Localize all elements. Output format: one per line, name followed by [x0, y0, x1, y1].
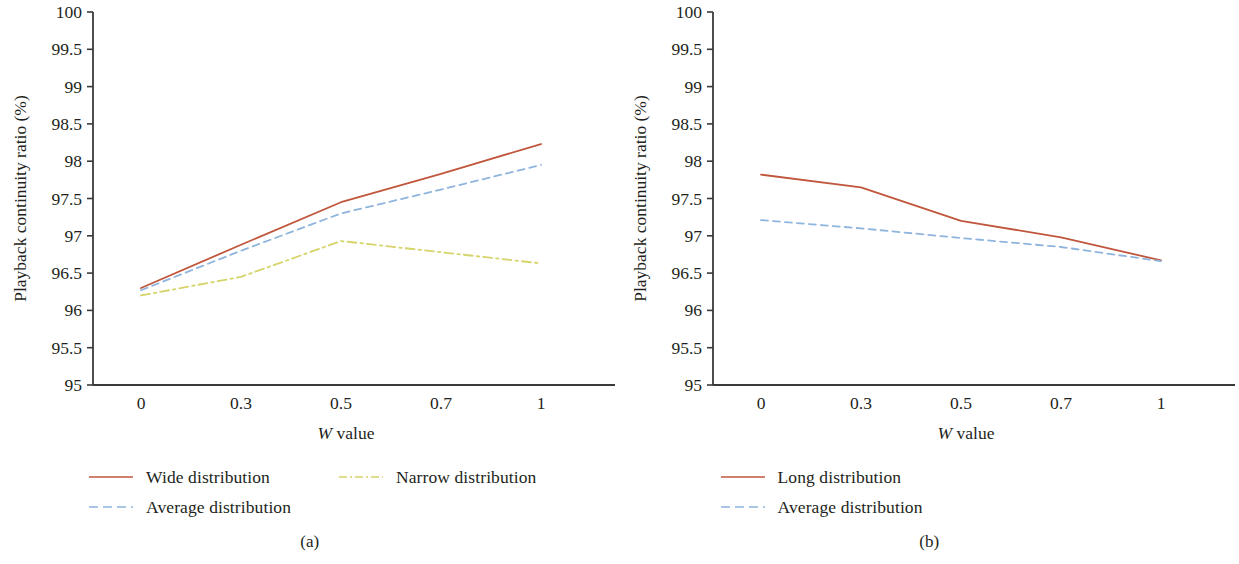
- y-axis-tick-label: 95: [65, 375, 83, 395]
- y-axis-tick-label: 96: [65, 300, 83, 320]
- x-axis-tick-label: 1: [537, 393, 546, 413]
- x-axis-tick-label: 0.5: [330, 393, 352, 413]
- x-axis-tick-label: 0.7: [430, 393, 452, 413]
- legend-label-long: Long distribution: [778, 467, 902, 488]
- legend-item-narrow[interactable]: Narrow distribution: [338, 467, 536, 488]
- chart-panel-b: 9595.59696.59797.59898.59999.510000.30.5…: [620, 0, 1239, 564]
- y-axis-tick-label: 98: [65, 151, 83, 171]
- legend-swatch-narrow: [338, 471, 384, 483]
- x-axis-title: W value: [937, 423, 994, 443]
- y-axis-tick-label: 99.5: [671, 39, 702, 59]
- legend-label-average-b: Average distribution: [778, 497, 923, 518]
- legend-label-average-a: Average distribution: [146, 497, 291, 518]
- legend-item-long[interactable]: Long distribution: [720, 467, 902, 488]
- y-axis-tick-label: 99: [65, 77, 83, 97]
- line-chart-a: 9595.59696.59797.59898.59999.510000.30.5…: [0, 0, 619, 450]
- y-axis-tick-label: 97: [65, 226, 83, 246]
- y-axis-tick-label: 97.5: [671, 189, 702, 209]
- subcaption-a: (a): [0, 532, 620, 552]
- y-axis-tick-label: 99.5: [51, 39, 82, 59]
- legend-swatch-wide: [88, 471, 134, 483]
- legend-b: Long distribution Average distribution: [720, 462, 1239, 522]
- subcaption-b: (b): [620, 532, 1239, 552]
- x-axis-tick-label: 0: [137, 393, 146, 413]
- line-chart-b: 9595.59696.59797.59898.59999.510000.30.5…: [620, 0, 1239, 450]
- y-axis-tick-label: 96.5: [51, 263, 82, 283]
- y-axis-tick-label: 95.5: [671, 338, 702, 358]
- legend-label-narrow: Narrow distribution: [396, 467, 536, 488]
- y-axis-tick-label: 97: [684, 226, 702, 246]
- y-axis-title: Playback continuity ratio (%): [10, 95, 30, 302]
- legend-item-wide[interactable]: Wide distribution: [88, 467, 338, 488]
- legend-item-average-a[interactable]: Average distribution: [88, 497, 338, 518]
- series-line: [761, 175, 1161, 261]
- legend-swatch-average-a: [88, 501, 134, 513]
- legend-label-wide: Wide distribution: [146, 467, 270, 488]
- y-axis-tick-label: 100: [675, 2, 702, 22]
- series-line: [141, 241, 541, 295]
- legend-item-average-b[interactable]: Average distribution: [720, 497, 923, 518]
- x-axis-tick-label: 0.3: [230, 393, 252, 413]
- y-axis-tick-label: 98.5: [51, 114, 82, 134]
- x-axis-tick-label: 0.5: [950, 393, 972, 413]
- series-line: [141, 165, 541, 290]
- x-axis-tick-label: 0.7: [1050, 393, 1072, 413]
- legend-a: Wide distribution Narrow distribution Av…: [88, 462, 708, 522]
- y-axis-title: Playback continuity ratio (%): [630, 95, 650, 302]
- y-axis-tick-label: 96.5: [671, 263, 702, 283]
- y-axis-tick-label: 98: [684, 151, 702, 171]
- y-axis-tick-label: 98.5: [671, 114, 702, 134]
- x-axis-title: W value: [318, 423, 375, 443]
- y-axis-tick-label: 95.5: [51, 338, 82, 358]
- y-axis-tick-label: 96: [684, 300, 702, 320]
- legend-swatch-long: [720, 471, 766, 483]
- x-axis-tick-label: 0: [756, 393, 765, 413]
- figure-container: 9595.59696.59797.59898.59999.510000.30.5…: [0, 0, 1239, 564]
- y-axis-tick-label: 97.5: [51, 189, 82, 209]
- series-line: [761, 220, 1161, 261]
- legend-swatch-average-b: [720, 501, 766, 513]
- y-axis-tick-label: 99: [684, 77, 702, 97]
- y-axis-tick-label: 95: [684, 375, 702, 395]
- chart-panel-a: 9595.59696.59797.59898.59999.510000.30.5…: [0, 0, 620, 564]
- x-axis-tick-label: 0.3: [850, 393, 872, 413]
- x-axis-tick-label: 1: [1156, 393, 1165, 413]
- y-axis-tick-label: 100: [56, 2, 83, 22]
